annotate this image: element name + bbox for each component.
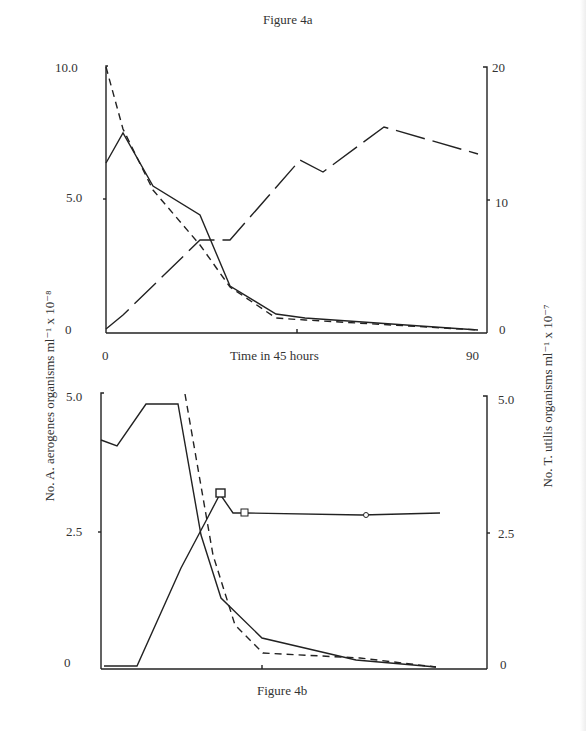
fig4a-series-aerogenes-solid [106, 133, 478, 330]
fig4a-series-aerogenes-dashed [106, 67, 478, 330]
fig4b-series-aerogenes-solid [101, 404, 436, 667]
figure-4b-plot [98, 393, 490, 669]
fig4b-right-axis [483, 396, 487, 669]
fig4b-square-marker [216, 489, 225, 497]
fig4a-series-utilis [106, 127, 478, 329]
figure-4a-plot [103, 66, 490, 333]
fig4a-right-axis [483, 67, 487, 333]
fig4b-series-aerogenes-dashed [185, 394, 436, 667]
page-edge-shadow [580, 0, 586, 731]
fig4a-left-axis [106, 66, 108, 333]
fig4b-left-axis [101, 393, 104, 669]
chart-canvas [0, 0, 586, 731]
